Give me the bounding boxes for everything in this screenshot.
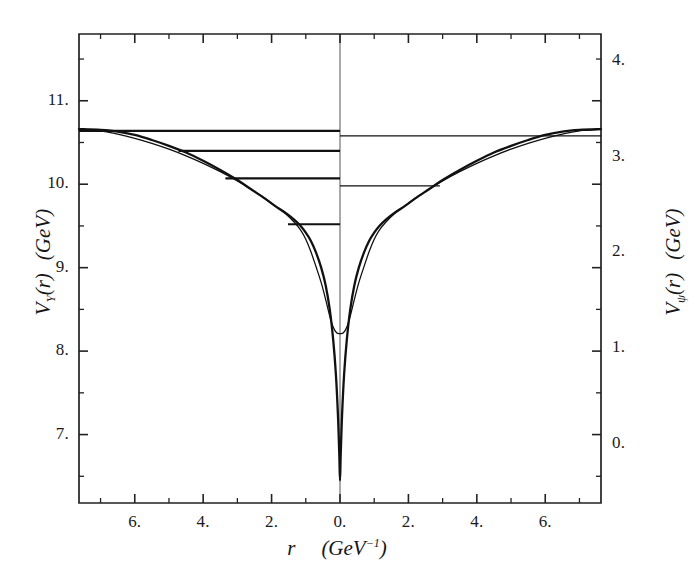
y-right-tick-label-4: 0. <box>612 433 658 453</box>
y-right-subscript: ψ <box>673 295 688 303</box>
y-left-tick-label-0: 11. <box>23 90 69 110</box>
y-right-tick-label-1: 3. <box>612 146 658 166</box>
x-symbol: r <box>287 536 295 560</box>
y-right-tick-label-0: 4. <box>612 50 658 70</box>
x-axis-title: r(GeV−1) <box>0 536 674 561</box>
x-units-close: ) <box>380 536 387 560</box>
y-right-tick-label-2: 2. <box>612 241 658 261</box>
y-right-arg: (r) <box>661 273 685 295</box>
x-units: (GeV <box>321 536 365 560</box>
x-tick-label-1: 4. <box>178 512 228 532</box>
x-tick-label-0: 6. <box>110 512 160 532</box>
y-left-subscript: Υ <box>43 295 58 302</box>
y-axis-right-title: Vψ(r)(GeV) <box>661 147 689 377</box>
x-tick-label-4: 2. <box>383 512 433 532</box>
x-tick-label-6: 6. <box>520 512 570 532</box>
y-left-units: (GeV) <box>31 209 55 260</box>
energy-levels-right <box>340 136 601 186</box>
y-left-arg: (r) <box>31 273 55 295</box>
y-axis-left-title: VΥ(r)(GeV) <box>31 147 59 377</box>
x-tick-label-5: 4. <box>452 512 502 532</box>
x-tick-label-3: 0. <box>315 512 365 532</box>
y-left-symbol: V <box>31 303 55 316</box>
y-right-units: (GeV) <box>661 208 685 259</box>
y-right-tick-label-3: 1. <box>612 337 658 357</box>
y-axis-right-ticks <box>592 59 601 476</box>
x-units-exponent: −1 <box>366 536 380 550</box>
y-left-tick-label-4: 7. <box>23 424 69 444</box>
energy-levels-left <box>79 131 340 224</box>
x-tick-label-2: 2. <box>247 512 297 532</box>
y-right-symbol: V <box>661 303 685 316</box>
y-axis-left-ticks <box>79 59 88 476</box>
